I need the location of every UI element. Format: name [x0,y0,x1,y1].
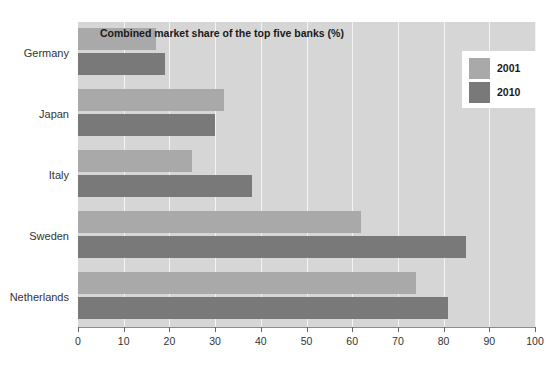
x-axis-tick-label: 80 [438,335,450,347]
x-axis-tick-label: 90 [483,335,495,347]
bar-sweden-2001 [78,211,361,233]
category-row [78,144,535,205]
x-axis-tick-label: 50 [301,335,313,347]
x-axis: 0102030405060708090100 [78,327,535,367]
x-axis-tick [169,327,170,332]
y-axis-label-netherlands: Netherlands [10,291,69,303]
x-axis-tick [78,327,79,332]
legend-swatch-icon [469,82,490,103]
x-axis-tick [307,327,308,332]
bar-germany-2010 [78,53,165,75]
bar-sweden-2010 [78,236,466,258]
legend-label: 2010 [497,86,520,98]
caption-text: concentration. [76,0,133,2]
bar-japan-2010 [78,114,215,136]
x-axis-tick [535,327,536,332]
y-axis-label-japan: Japan [39,108,69,120]
y-axis-label-italy: Italy [49,169,69,181]
chart-legend: 20012010 [462,51,538,108]
x-axis-tick [444,327,445,332]
bar-netherlands-2001 [78,272,416,294]
bar-italy-2001 [78,150,192,172]
x-axis-tick-label: 30 [209,335,221,347]
y-axis-labels: GermanyJapanItalySwedenNetherlands [0,22,72,327]
x-axis-tick-label: 60 [346,335,358,347]
chart-page: concentration. GermanyJapanItalySwedenNe… [0,0,559,367]
x-axis-tick [398,327,399,332]
legend-label: 2001 [497,62,520,74]
x-axis-tick-label: 0 [75,335,81,347]
legend-swatch-icon [469,58,490,79]
x-axis-tick-label: 20 [164,335,176,347]
category-row [78,266,535,327]
y-axis-label-germany: Germany [24,47,69,59]
x-axis-tick-label: 40 [255,335,267,347]
caption-clipped: concentration. [0,0,559,6]
category-row [78,205,535,266]
x-axis-tick [215,327,216,332]
x-axis-tick-label: 70 [392,335,404,347]
x-axis-tick-label: 100 [526,335,544,347]
bar-italy-2010 [78,175,252,197]
bar-japan-2001 [78,89,224,111]
bar-netherlands-2010 [78,297,448,319]
y-axis-label-sweden: Sweden [29,230,69,242]
x-axis-tick [261,327,262,332]
x-axis-tick [124,327,125,332]
x-axis-tick [489,327,490,332]
x-axis-tick [352,327,353,332]
chart-title: Combined market share of the top five ba… [100,27,344,39]
x-axis-tick-label: 10 [118,335,130,347]
